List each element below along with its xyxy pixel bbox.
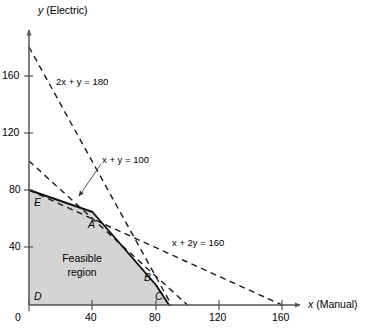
feasible-region-chart: y (Electric) x (Manual) 160 120 80 40 0 …: [0, 0, 365, 328]
x-tick-label-160: 160: [272, 312, 289, 323]
y-tick-label-40: 40: [9, 241, 20, 252]
vertex-label-d: D: [34, 291, 42, 302]
y-tick-label-80: 80: [9, 184, 20, 195]
leader-line-x-plus-y-100: [79, 164, 101, 196]
vertex-label-c: C: [155, 291, 163, 302]
x-tick-label-80: 80: [149, 312, 160, 323]
y-axis-title: y (Electric): [38, 5, 88, 16]
feasible-region-label-line1: Feasible: [44, 253, 120, 264]
x-axis-description: (Manual): [316, 298, 357, 310]
y-tick-label-120: 120: [2, 127, 19, 138]
x-axis-title: x (Manual): [308, 299, 358, 310]
vertex-label-a: A: [88, 219, 95, 230]
feasible-region-label-line2: region: [44, 267, 120, 278]
equation-label-x-plus-2y-160: x + 2y = 160: [172, 238, 224, 248]
x-tick-label-0: 0: [15, 312, 21, 323]
x-tick-label-40: 40: [85, 312, 96, 323]
chart-plot-area: [0, 0, 365, 328]
vertex-label-b: B: [144, 272, 151, 283]
vertex-label-e: E: [34, 197, 41, 208]
y-tick-label-160: 160: [2, 70, 19, 81]
feasible-region-shading: [29, 190, 169, 305]
x-tick-label-120: 120: [209, 312, 226, 323]
y-axis-description: (Electric): [46, 4, 87, 16]
feasible-region-label: Feasible region: [44, 253, 120, 277]
equation-label-2x-plus-y-180: 2x + y = 180: [56, 77, 108, 87]
equation-label-x-plus-y-100: x + y = 100: [102, 155, 149, 165]
